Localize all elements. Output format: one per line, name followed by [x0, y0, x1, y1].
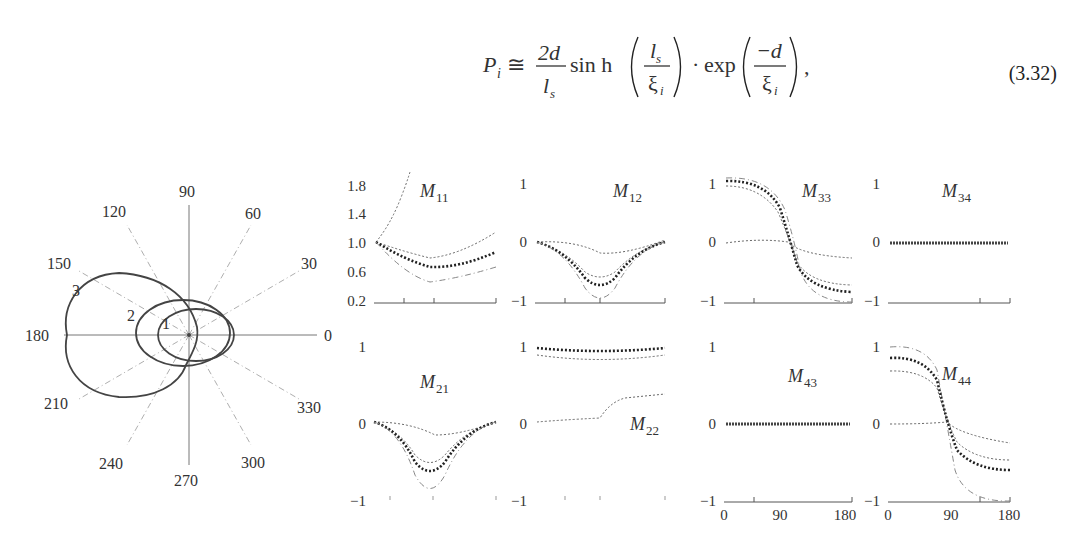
eq-frac2-num-sub: s — [656, 51, 661, 66]
svg-text:M: M — [629, 414, 646, 434]
svg-text:22: 22 — [646, 423, 659, 438]
eq-exp: exp — [704, 52, 736, 77]
svg-text:0: 0 — [520, 234, 528, 250]
eq-frac3-den: ξ — [762, 71, 772, 96]
svg-text:0: 0 — [359, 416, 367, 432]
svg-text:60: 60 — [245, 205, 261, 222]
svg-text:M: M — [787, 366, 804, 386]
svg-text:0: 0 — [709, 416, 717, 432]
svg-text:0.6: 0.6 — [347, 264, 366, 280]
svg-text:1: 1 — [359, 339, 367, 355]
svg-text:21: 21 — [436, 381, 449, 396]
svg-text:−1: −1 — [700, 493, 716, 509]
equation-graphic: P i ≅ 2d l s sin h l s ξ i · exp −d ξ i — [340, 22, 1067, 102]
svg-text:1: 1 — [162, 315, 170, 332]
svg-text:3: 3 — [72, 282, 80, 299]
svg-text:0: 0 — [873, 416, 881, 432]
svg-text:−1: −1 — [511, 493, 527, 509]
eq-frac1-den: l — [543, 73, 549, 98]
svg-text:180: 180 — [834, 507, 857, 523]
eq-dot: · — [692, 52, 699, 77]
svg-text:0: 0 — [520, 416, 528, 432]
eq-lhs: P — [482, 52, 496, 77]
equation-number: (3.32) — [1009, 62, 1057, 85]
svg-text:1.4: 1.4 — [347, 206, 366, 222]
svg-text:0: 0 — [720, 507, 728, 523]
panel-M22: 1 0 −1 M 22 — [511, 339, 665, 509]
eq-frac2-den: ξ — [648, 71, 658, 96]
svg-text:330: 330 — [297, 399, 321, 416]
svg-text:12: 12 — [629, 190, 642, 205]
polar-axes: 0 30 60 90 120 150 180 210 240 270 300 3… — [25, 183, 332, 489]
eq-trail: , — [804, 54, 810, 79]
svg-text:210: 210 — [44, 395, 68, 412]
svg-text:1: 1 — [873, 176, 881, 192]
svg-text:1: 1 — [709, 176, 717, 192]
eq-frac2-den-sub: i — [660, 83, 664, 98]
svg-text:33: 33 — [818, 190, 831, 205]
eq-frac1-num: 2d — [538, 40, 561, 65]
panel-M11: 1.8 1.4 1.0 0.6 0.2 M 11 — [347, 172, 496, 309]
svg-text:1.8: 1.8 — [347, 178, 366, 194]
svg-text:180: 180 — [25, 327, 49, 344]
eq-lhs-sub: i — [497, 66, 501, 81]
svg-text:−1: −1 — [350, 493, 366, 509]
svg-text:11: 11 — [436, 190, 449, 205]
x-ticks-M44: 0 90 180 — [884, 507, 1020, 523]
svg-text:M: M — [419, 181, 436, 201]
panel-M21: 1 0 −1 M 21 — [350, 339, 496, 509]
svg-text:270: 270 — [174, 472, 198, 489]
svg-text:300: 300 — [241, 454, 265, 471]
svg-text:M: M — [941, 364, 958, 384]
panel-M33: 1 0 −1 M 33 — [700, 176, 852, 309]
svg-text:0.2: 0.2 — [347, 293, 366, 309]
angle-labels: 0 30 60 90 120 150 180 210 240 270 300 3… — [25, 183, 332, 489]
panel-M43: 1 0 −1 0 90 180 M 43 — [700, 339, 856, 523]
svg-text:−1: −1 — [511, 293, 527, 309]
svg-text:44: 44 — [958, 373, 972, 388]
panel-M34: 1 0 −1 M 34 — [864, 176, 1010, 309]
x-ticks-M43: 0 90 180 — [720, 507, 856, 523]
svg-text:180: 180 — [998, 507, 1021, 523]
svg-text:90: 90 — [944, 507, 959, 523]
equation-3-32: P i ≅ 2d l s sin h l s ξ i · exp −d ξ i — [340, 22, 1067, 102]
svg-text:M: M — [419, 372, 436, 392]
panel-M12: 1 0 −1 M 12 — [511, 176, 665, 309]
svg-text:150: 150 — [47, 255, 71, 272]
svg-text:0: 0 — [709, 234, 717, 250]
mueller-matrix-panels: 1.8 1.4 1.0 0.6 0.2 M 11 1 0 −1 M 12 — [330, 170, 1067, 550]
svg-text:1: 1 — [709, 339, 717, 355]
panel-M44: 1 0 −1 0 90 180 M 44 — [864, 339, 1020, 523]
svg-text:1: 1 — [873, 339, 881, 355]
svg-text:0: 0 — [873, 234, 881, 250]
svg-text:120: 120 — [102, 203, 126, 220]
eq-frac1-den-sub: s — [550, 86, 555, 101]
svg-text:M: M — [612, 181, 629, 201]
svg-text:34: 34 — [958, 190, 972, 205]
svg-text:90: 90 — [773, 507, 788, 523]
svg-text:1: 1 — [520, 176, 528, 192]
svg-text:43: 43 — [804, 375, 817, 390]
svg-text:−1: −1 — [864, 493, 880, 509]
eq-frac3-num: −d — [756, 38, 783, 63]
eq-approx: ≅ — [507, 52, 525, 77]
svg-text:M: M — [941, 181, 958, 201]
eq-sinh: sin h — [570, 52, 612, 77]
svg-text:2: 2 — [127, 307, 135, 324]
svg-text:M: M — [801, 181, 818, 201]
svg-text:−1: −1 — [700, 293, 716, 309]
svg-text:0: 0 — [884, 507, 892, 523]
svg-text:30: 30 — [301, 255, 317, 272]
svg-text:1: 1 — [520, 339, 528, 355]
polar-plot: 0 30 60 90 120 150 180 210 240 270 300 3… — [0, 140, 340, 500]
svg-text:90: 90 — [179, 183, 195, 200]
svg-text:1.0: 1.0 — [347, 235, 366, 251]
svg-text:−1: −1 — [864, 293, 880, 309]
svg-text:240: 240 — [99, 455, 123, 472]
eq-frac3-den-sub: i — [774, 83, 778, 98]
